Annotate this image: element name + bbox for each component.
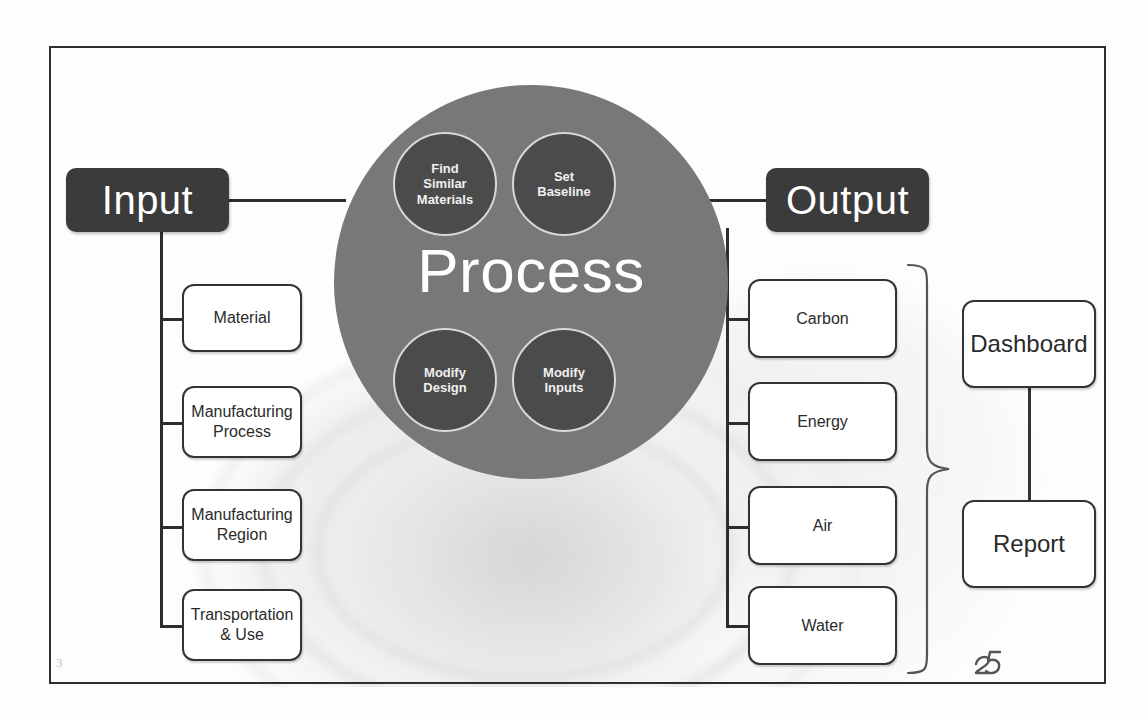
connector-process-to-output <box>706 199 766 202</box>
input-item-transportation-use[interactable]: Transportation & Use <box>182 589 302 661</box>
output-item-label: Carbon <box>796 309 848 329</box>
process-circle[interactable]: Process Find Similar Materials Set Basel… <box>334 85 728 479</box>
output-item-water[interactable]: Water <box>748 586 897 665</box>
slide-canvas: Input Material Manufacturing Process Man… <box>0 0 1146 718</box>
connector-output-stub-2 <box>726 422 748 425</box>
deliverable-label: Report <box>993 529 1065 559</box>
output-title-box[interactable]: Output <box>766 168 929 232</box>
page-number-mark <box>968 642 1008 682</box>
connector-output-stub-1 <box>726 318 748 321</box>
process-step-label: Modify Inputs <box>543 365 585 396</box>
output-item-air[interactable]: Air <box>748 486 897 565</box>
output-item-energy[interactable]: Energy <box>748 382 897 461</box>
connector-input-stub-3 <box>160 526 182 529</box>
process-step-set-baseline[interactable]: Set Baseline <box>512 132 616 236</box>
process-step-find-similar-materials[interactable]: Find Similar Materials <box>393 132 497 236</box>
connector-input-spine <box>160 228 163 628</box>
input-item-material[interactable]: Material <box>182 284 302 352</box>
deliverable-dashboard[interactable]: Dashboard <box>962 300 1096 388</box>
output-title-label: Output <box>786 178 909 223</box>
connector-input-stub-2 <box>160 422 182 425</box>
deliverable-label: Dashboard <box>970 329 1087 359</box>
process-step-label: Find Similar Materials <box>417 161 473 207</box>
slide-corner-mark: 3 <box>56 655 63 671</box>
process-title-label: Process <box>334 235 728 306</box>
output-item-label: Air <box>813 516 833 536</box>
connector-input-stub-1 <box>160 318 182 321</box>
input-title-box[interactable]: Input <box>66 168 229 232</box>
connector-output-stub-4 <box>726 625 748 628</box>
input-item-label: Material <box>214 308 271 328</box>
connector-input-stub-4 <box>160 625 182 628</box>
input-item-label: Transportation & Use <box>191 605 294 645</box>
connector-output-stub-3 <box>726 526 748 529</box>
process-step-label: Modify Design <box>423 365 466 396</box>
process-step-label: Set Baseline <box>537 169 590 200</box>
process-step-modify-design[interactable]: Modify Design <box>393 328 497 432</box>
deliverable-report[interactable]: Report <box>962 500 1096 588</box>
output-item-label: Energy <box>797 412 848 432</box>
input-item-manufacturing-process[interactable]: Manufacturing Process <box>182 386 302 458</box>
connector-input-to-process <box>226 199 346 202</box>
grouping-brace <box>905 262 955 677</box>
process-step-modify-inputs[interactable]: Modify Inputs <box>512 328 616 432</box>
input-item-manufacturing-region[interactable]: Manufacturing Region <box>182 489 302 561</box>
output-item-carbon[interactable]: Carbon <box>748 279 897 358</box>
input-item-label: Manufacturing Region <box>191 505 292 545</box>
connector-dashboard-to-report <box>1028 386 1031 502</box>
input-item-label: Manufacturing Process <box>191 402 292 442</box>
input-title-label: Input <box>102 178 193 223</box>
output-item-label: Water <box>801 616 843 636</box>
